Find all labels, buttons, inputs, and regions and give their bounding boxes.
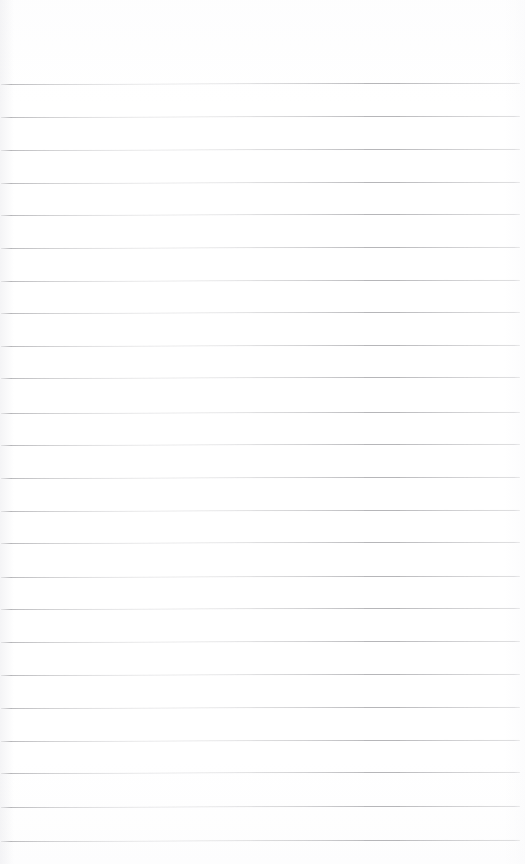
rule-line: [1, 444, 520, 446]
rule-line: [1, 247, 520, 249]
rule-line: [1, 312, 520, 314]
rule-line: [1, 214, 520, 216]
rule-line: [1, 542, 520, 544]
rule-line: [1, 840, 520, 842]
footer-margin: [0, 843, 525, 864]
rule-line: [1, 345, 520, 347]
rule-line: [1, 377, 520, 379]
rule-line: [1, 740, 520, 742]
rule-line: [1, 576, 520, 578]
rule-line: [1, 412, 520, 414]
ruled-lines-group: [0, 0, 525, 864]
rule-line: [1, 280, 520, 282]
rule-line: [1, 182, 520, 184]
paper-sheet: Blank lined notebook paper: [0, 0, 525, 864]
rule-line: [1, 707, 520, 709]
rule-line: [1, 608, 520, 610]
rule-line: [1, 477, 520, 479]
rule-line: [1, 641, 520, 643]
rule-line: [1, 806, 520, 808]
rule-line: [1, 149, 520, 151]
rule-line: [1, 116, 520, 118]
rule-line: [1, 510, 520, 512]
rule-line: [1, 83, 520, 85]
rule-line: [1, 674, 520, 676]
rule-line: [1, 772, 520, 774]
